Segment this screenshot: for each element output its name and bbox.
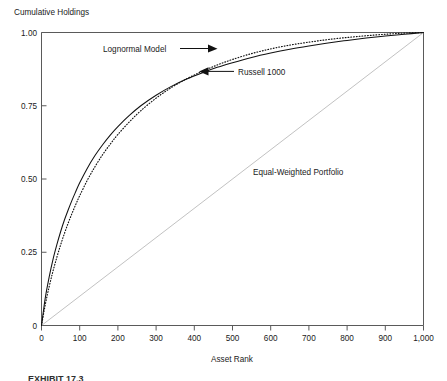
y-tick-label: 0 <box>32 322 37 331</box>
y-tick-label: 1.00 <box>21 29 37 38</box>
annotation-equal-weighted-portfolio: Equal-Weighted Portfolio <box>253 168 344 177</box>
annotation-lognormal-model: Lognormal Model <box>103 45 218 54</box>
y-tick-marks <box>42 33 47 326</box>
x-tick-label: 1,000 <box>413 334 434 343</box>
arrow-left-icon <box>199 67 209 75</box>
x-tick-label: 800 <box>340 334 354 343</box>
chart-figure: 1.00 0.75 0.50 0.25 0 0 100 200 300 400 … <box>0 0 447 381</box>
y-tick-label: 0.25 <box>21 248 37 257</box>
x-tick-label: 900 <box>378 334 392 343</box>
x-axis-title: Asset Rank <box>211 355 254 364</box>
x-tick-label: 500 <box>226 334 240 343</box>
x-tick-marks <box>42 326 424 331</box>
y-tick-label: 0.75 <box>21 102 37 111</box>
x-tick-label: 700 <box>302 334 316 343</box>
annotation-russell-label: Russell 1000 <box>238 68 286 77</box>
x-tick-label: 400 <box>187 334 201 343</box>
lorenz-curve-chart: 1.00 0.75 0.50 0.25 0 0 100 200 300 400 … <box>0 0 447 381</box>
arrow-right-icon <box>208 45 218 53</box>
series-equal-weighted-portfolio <box>42 33 424 326</box>
x-tick-labels: 0 100 200 300 400 500 600 700 800 900 1,… <box>39 334 434 343</box>
annotation-equal-weighted-label: Equal-Weighted Portfolio <box>253 168 344 177</box>
exhibit-caption: EXHIBIT 17.3 <box>28 374 84 381</box>
y-tick-labels: 1.00 0.75 0.50 0.25 0 <box>21 29 37 331</box>
x-tick-label: 300 <box>149 334 163 343</box>
data-series-group <box>42 33 424 326</box>
x-tick-label: 600 <box>264 334 278 343</box>
x-tick-label: 0 <box>39 334 44 343</box>
x-tick-label: 100 <box>73 334 87 343</box>
annotation-lognormal-label: Lognormal Model <box>103 45 166 54</box>
y-tick-label: 0.50 <box>21 175 37 184</box>
x-tick-label: 200 <box>111 334 125 343</box>
y-axis-title: Cumulative Holdings <box>14 8 89 17</box>
